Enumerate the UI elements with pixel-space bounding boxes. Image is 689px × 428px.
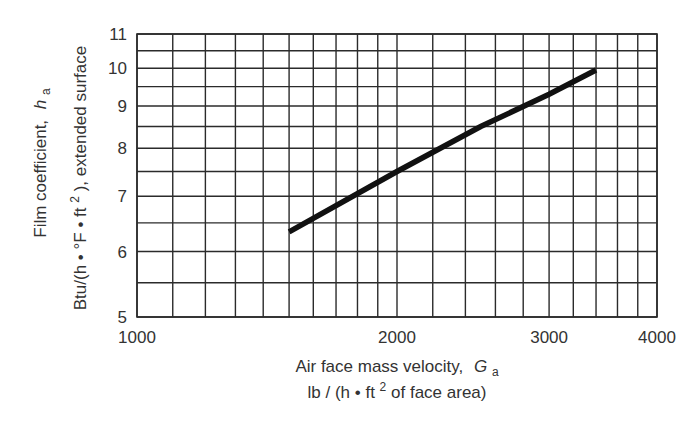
y-axis-symbol: h bbox=[31, 100, 50, 109]
x-axis-label-line1: Air face mass velocity, G a bbox=[295, 357, 499, 379]
series-line bbox=[289, 70, 596, 232]
y-tick-label: 9 bbox=[118, 97, 127, 116]
x-tick-label: 4000 bbox=[638, 328, 676, 347]
data-series bbox=[289, 70, 596, 232]
chart: 1000200030004000 567891011 Air face mass… bbox=[0, 0, 689, 428]
x-axis-subscript: a bbox=[492, 365, 499, 379]
y-tick-label: 8 bbox=[118, 139, 127, 158]
y-tick-label: 11 bbox=[109, 25, 127, 44]
y-axis-label-line1: Film coefficient, h a bbox=[31, 88, 53, 238]
y-tick-label: 7 bbox=[118, 187, 127, 206]
y-tick-label: 10 bbox=[108, 59, 127, 78]
x-tick-labels: 1000200030004000 bbox=[118, 328, 676, 347]
x-tick-label: 3000 bbox=[530, 328, 568, 347]
y-axis-label-text: Film coefficient, bbox=[31, 120, 50, 238]
x-axis-label-line2: lb / (h • ft 2 of face area) bbox=[308, 376, 487, 402]
y-axis-label-line2: Btu/(h • °F • ft 2 ), extended surface bbox=[64, 46, 90, 310]
y-tick-label: 6 bbox=[118, 243, 127, 262]
x-axis-units-suffix: of face area) bbox=[391, 383, 486, 402]
x-axis-units-prefix: lb / (h • ft bbox=[308, 383, 376, 402]
y-tick-label: 5 bbox=[118, 308, 127, 327]
x-tick-label: 2000 bbox=[378, 328, 416, 347]
y-axis-subscript: a bbox=[39, 88, 53, 95]
y-axis-units-suffix: ), extended surface bbox=[71, 46, 90, 192]
x-axis-units-sup: 2 bbox=[380, 380, 387, 394]
x-axis-label-text: Air face mass velocity, bbox=[295, 357, 463, 376]
x-axis-symbol: G bbox=[474, 357, 487, 376]
y-axis-units-prefix: Btu/(h • °F • ft bbox=[71, 207, 90, 310]
y-axis-units-sup: 2 bbox=[68, 196, 82, 203]
y-tick-labels: 567891011 bbox=[108, 25, 127, 327]
x-tick-label: 1000 bbox=[118, 328, 156, 347]
